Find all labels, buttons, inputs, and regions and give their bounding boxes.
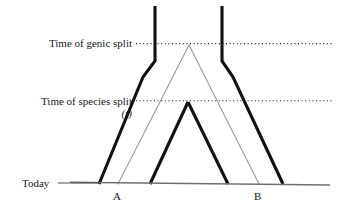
species-split-label: Time of species split: [14, 95, 132, 107]
taxon-b-label: B: [254, 190, 261, 202]
genic-split-label: Time of genic split: [22, 37, 132, 49]
taxon-a-label: A: [113, 190, 121, 202]
species-split-time-symbol-label: (t): [14, 107, 132, 119]
figure-container: Time of genic split Time of species spli…: [0, 0, 344, 208]
species-tree-inner-right-branch: [188, 102, 228, 184]
today-baseline: [70, 182, 330, 185]
species-tree-right-outer-branch: [222, 6, 283, 184]
gene-tree-group: [118, 45, 259, 184]
today-label: Today: [22, 177, 70, 189]
species-tree-inner-left-branch: [150, 102, 188, 184]
